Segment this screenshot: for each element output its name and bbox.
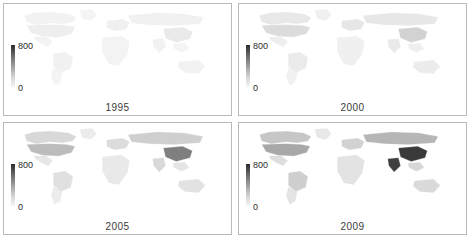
colorbar-min-label: 0 [253, 83, 258, 93]
colorbar-max-label: 800 [253, 160, 268, 170]
region-europe [107, 139, 129, 151]
region-southeast-asia [408, 163, 424, 172]
colorbar-1995: 800 0 [11, 43, 53, 89]
colorbar-gradient [246, 164, 250, 206]
region-greenland [80, 10, 96, 21]
panel-year-label-1995: 1995 [4, 102, 231, 113]
region-europe [342, 20, 364, 32]
region-australia [413, 60, 440, 73]
colorbar-2000: 800 0 [246, 43, 288, 89]
region-united-states [27, 25, 75, 37]
region-china [399, 28, 428, 43]
region-greenland [315, 129, 331, 140]
region-australia [178, 60, 205, 73]
region-canada [260, 131, 311, 143]
region-india [388, 39, 401, 53]
map-panel-2009: 800 0 2009 [238, 122, 467, 235]
region-greenland [80, 129, 96, 140]
colorbar-gradient [246, 45, 250, 87]
region-china [164, 28, 193, 43]
region-india [153, 39, 166, 53]
region-united-states [262, 144, 310, 156]
region-canada [260, 12, 311, 24]
region-united-states [27, 144, 75, 156]
region-europe [342, 139, 364, 151]
region-africa [103, 155, 130, 184]
region-india [153, 158, 166, 172]
panel-grid: 800 0 1995 [0, 0, 470, 238]
region-canada [25, 12, 76, 24]
colorbar-min-label: 0 [253, 202, 258, 212]
colorbar-gradient [11, 45, 15, 87]
colorbar-gradient [11, 164, 15, 206]
colorbar-2005: 800 0 [11, 162, 53, 208]
region-china [399, 147, 428, 162]
panel-year-label-2005: 2005 [4, 221, 231, 232]
panel-year-label-2009: 2009 [239, 221, 466, 232]
region-russia [363, 132, 438, 144]
colorbar-min-label: 0 [18, 202, 23, 212]
region-canada [25, 131, 76, 143]
region-united-states [262, 25, 310, 37]
region-africa [103, 36, 130, 65]
colorbar-max-label: 800 [18, 160, 33, 170]
region-greenland [315, 10, 331, 21]
map-panel-2005: 800 0 2005 [3, 122, 232, 235]
region-russia [128, 13, 203, 25]
colorbar-max-label: 800 [253, 41, 268, 51]
region-russia [128, 132, 203, 144]
region-russia [363, 13, 438, 25]
region-australia [178, 179, 205, 192]
region-southeast-asia [173, 44, 189, 53]
region-southeast-asia [408, 44, 424, 53]
region-africa [338, 155, 365, 184]
colorbar-max-label: 800 [18, 41, 33, 51]
region-europe [107, 20, 129, 32]
map-panel-2000: 800 0 2000 [238, 3, 467, 116]
region-africa [338, 36, 365, 65]
region-china [164, 147, 193, 162]
map-panel-1995: 800 0 1995 [3, 3, 232, 116]
colorbar-min-label: 0 [18, 83, 23, 93]
panel-year-label-2000: 2000 [239, 102, 466, 113]
figure-small-multiples-world-maps: 800 0 1995 [0, 0, 470, 238]
region-australia [413, 179, 440, 192]
region-india [388, 158, 401, 172]
region-southeast-asia [173, 163, 189, 172]
colorbar-2009: 800 0 [246, 162, 288, 208]
